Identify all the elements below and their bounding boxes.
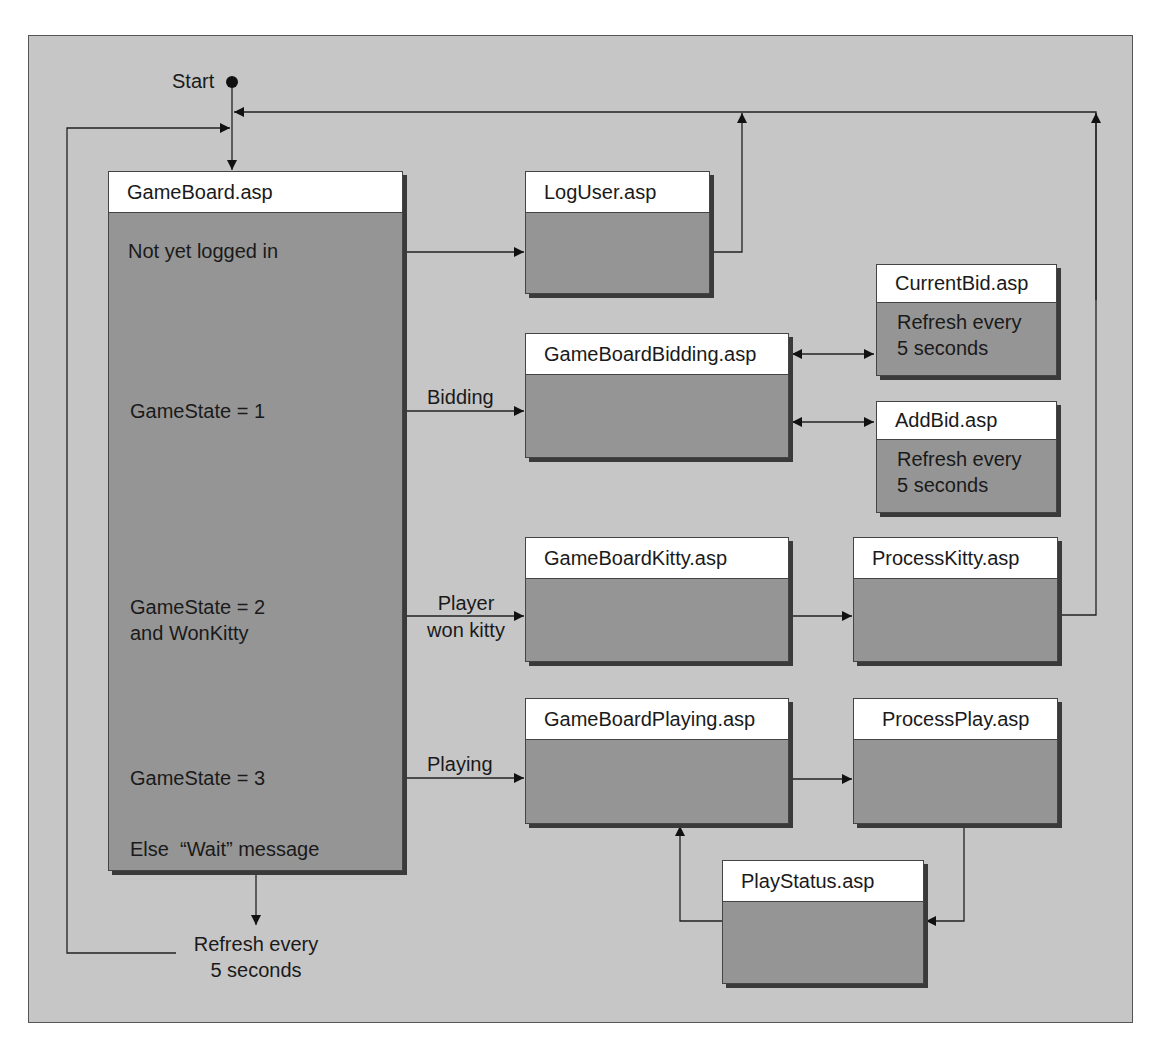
processplay-title: ProcessPlay.asp (854, 699, 1057, 740)
gameboard-title: GameBoard.asp (109, 172, 402, 213)
playstatus-title: PlayStatus.asp (723, 861, 923, 902)
playing-title: GameBoardPlaying.asp (526, 699, 788, 740)
edge-label-player: Player (418, 590, 514, 616)
playing-box: GameBoardPlaying.asp (525, 698, 789, 824)
bidding-box: GameBoardBidding.asp (525, 333, 789, 458)
currentbid-note: Refresh every 5 seconds (877, 303, 1056, 367)
condition-gamestate-2: GameState = 2 (130, 594, 265, 620)
edge-label-playing: Playing (427, 751, 493, 777)
processplay-box: ProcessPlay.asp (853, 698, 1058, 824)
edge-label-won-kitty: won kitty (418, 617, 514, 643)
condition-else-wait: Else “Wait” message (130, 836, 319, 862)
start-label: Start (172, 68, 214, 94)
currentbid-box: CurrentBid.asp Refresh every 5 seconds (876, 264, 1057, 376)
condition-gamestate-3: GameState = 3 (130, 765, 265, 791)
refresh-label-line2: 5 seconds (176, 957, 336, 983)
addbid-note: Refresh every 5 seconds (877, 440, 1056, 504)
playstatus-box: PlayStatus.asp (722, 860, 924, 984)
kitty-title: GameBoardKitty.asp (526, 538, 788, 579)
condition-gamestate-1: GameState = 1 (130, 398, 265, 424)
refresh-label-line1: Refresh every (176, 931, 336, 957)
processkitty-title: ProcessKitty.asp (854, 538, 1057, 579)
bidding-title: GameBoardBidding.asp (526, 334, 788, 375)
condition-won-kitty: and WonKitty (130, 620, 249, 646)
addbid-box: AddBid.asp Refresh every 5 seconds (876, 401, 1057, 513)
kitty-box: GameBoardKitty.asp (525, 537, 789, 662)
currentbid-title: CurrentBid.asp (877, 265, 1056, 303)
edge-label-bidding: Bidding (427, 384, 494, 410)
processkitty-box: ProcessKitty.asp (853, 537, 1058, 662)
start-node-icon (226, 76, 238, 88)
loguser-box: LogUser.asp (525, 171, 710, 294)
loguser-title: LogUser.asp (526, 172, 709, 213)
condition-not-logged-in: Not yet logged in (128, 238, 278, 264)
addbid-title: AddBid.asp (877, 402, 1056, 440)
